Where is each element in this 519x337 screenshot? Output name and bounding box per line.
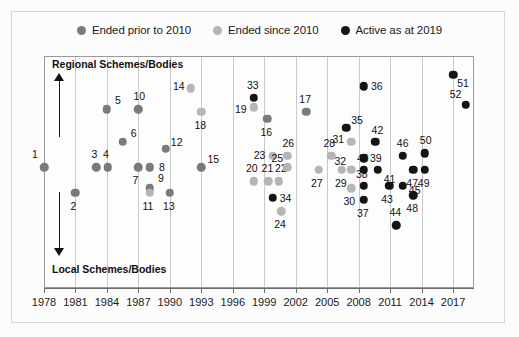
data-point-4[interactable] (104, 163, 113, 172)
data-point-14[interactable] (187, 84, 196, 93)
data-point-label-9: 9 (158, 172, 164, 184)
data-point-34[interactable] (268, 193, 277, 202)
x-tick-1993 (201, 288, 202, 293)
data-point-label-24: 24 (274, 218, 286, 230)
data-point-label-42: 42 (372, 124, 384, 136)
data-point-5[interactable] (103, 105, 112, 114)
data-point-18[interactable] (197, 107, 206, 116)
data-point-37[interactable] (360, 196, 369, 205)
gridline-1990 (170, 57, 171, 287)
data-point-label-2: 2 (71, 200, 77, 212)
data-point-11[interactable] (146, 189, 155, 198)
x-axis-label: 1996 (221, 296, 245, 308)
data-point-35[interactable] (342, 124, 351, 133)
x-axis-label: 1981 (63, 296, 87, 308)
data-point-label-44: 44 (390, 206, 402, 218)
legend-label: Ended prior to 2010 (92, 24, 191, 36)
data-point-31[interactable] (347, 138, 356, 147)
data-point-label-43: 43 (381, 193, 393, 205)
data-point-42[interactable] (371, 138, 380, 147)
gridline-1993 (201, 57, 202, 287)
data-point-3[interactable] (92, 163, 101, 172)
data-point-label-48: 48 (406, 202, 418, 214)
data-point-label-20: 20 (246, 162, 258, 174)
data-point-17[interactable] (302, 107, 311, 116)
legend-label: Active as at 2019 (356, 24, 443, 36)
x-axis-label: 2002 (283, 296, 307, 308)
legend-marker-icon (77, 26, 86, 35)
x-tick-2017 (453, 288, 454, 293)
data-point-21[interactable] (264, 177, 273, 186)
x-axis-line (44, 288, 474, 289)
data-point-7[interactable] (134, 163, 143, 172)
data-point-12[interactable] (161, 145, 170, 154)
x-tick-2014 (422, 288, 423, 293)
data-point-24[interactable] (277, 207, 286, 216)
x-axis-label: 2014 (409, 296, 433, 308)
data-point-20[interactable] (250, 177, 259, 186)
data-point-26[interactable] (283, 152, 292, 161)
x-tick-1996 (233, 288, 234, 293)
x-tick-1999 (264, 288, 265, 293)
data-point-label-15: 15 (207, 153, 219, 165)
data-point-43[interactable] (385, 182, 394, 191)
legend-item-active_2019[interactable]: Active as at 2019 (341, 24, 443, 36)
data-point-2[interactable] (71, 189, 80, 198)
data-point-30[interactable] (347, 184, 356, 193)
x-axis-label: 1987 (126, 296, 150, 308)
x-axis-label: 2011 (378, 296, 402, 308)
x-axis-label: 1978 (32, 296, 56, 308)
data-point-25[interactable] (283, 163, 292, 172)
data-point-label-5: 5 (115, 94, 121, 106)
data-point-8[interactable] (146, 163, 155, 172)
x-axis-label: 1984 (95, 296, 119, 308)
legend-label: Ended since 2010 (228, 24, 318, 36)
x-axis-label: 2005 (315, 296, 339, 308)
data-point-47[interactable] (409, 165, 418, 174)
data-point-label-12: 12 (171, 136, 183, 148)
x-tick-2002 (296, 288, 297, 293)
legend-item-ended_prior_2010[interactable]: Ended prior to 2010 (77, 24, 191, 36)
data-point-label-49: 49 (418, 177, 430, 189)
data-point-36[interactable] (360, 82, 369, 91)
data-point-44[interactable] (392, 221, 401, 230)
data-point-label-32: 32 (334, 155, 346, 167)
data-point-1[interactable] (40, 163, 49, 172)
data-point-52[interactable] (461, 100, 470, 109)
data-point-label-19: 19 (235, 103, 247, 115)
x-axis-label: 2008 (346, 296, 370, 308)
data-point-29[interactable] (338, 165, 347, 174)
data-point-41[interactable] (373, 165, 382, 174)
data-point-22[interactable] (275, 177, 284, 186)
legend-item-ended_since_2010[interactable]: Ended since 2010 (213, 24, 318, 36)
data-point-label-34: 34 (280, 192, 292, 204)
data-point-46[interactable] (398, 152, 407, 161)
gridline-2002 (296, 57, 297, 287)
x-tick-1984 (107, 288, 108, 293)
data-point-10[interactable] (134, 105, 143, 114)
legend-marker-icon (213, 26, 222, 35)
data-point-15[interactable] (197, 163, 206, 172)
data-point-50[interactable] (420, 149, 429, 158)
data-point-label-14: 14 (173, 80, 185, 92)
gridline-1996 (233, 57, 234, 287)
data-point-label-36: 36 (371, 80, 383, 92)
data-point-label-33: 33 (247, 79, 259, 91)
arrow-up-line (59, 80, 60, 137)
data-point-6[interactable] (118, 138, 127, 147)
data-point-27[interactable] (315, 165, 324, 174)
data-point-16[interactable] (263, 114, 272, 123)
gridline-1984 (107, 57, 108, 287)
data-point-33[interactable] (250, 94, 259, 103)
data-point-32[interactable] (347, 165, 356, 174)
data-point-49[interactable] (420, 165, 429, 174)
data-point-label-17: 17 (299, 93, 311, 105)
data-point-19[interactable] (250, 103, 259, 112)
data-point-48[interactable] (409, 191, 418, 200)
data-point-51[interactable] (449, 70, 458, 79)
data-point-label-30: 30 (343, 195, 355, 207)
data-point-38[interactable] (360, 182, 369, 191)
x-tick-1978 (44, 288, 45, 293)
data-point-40[interactable] (360, 165, 369, 174)
data-point-13[interactable] (166, 189, 175, 198)
